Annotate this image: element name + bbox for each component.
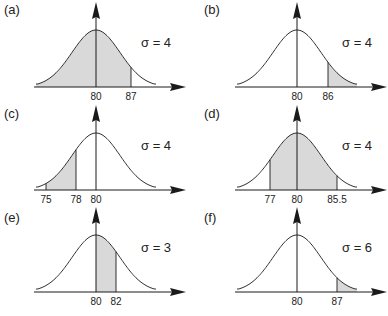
sigma-label: σ = 4 [342, 35, 372, 50]
tick-label: 82 [110, 296, 122, 307]
tick-label: 80 [291, 194, 303, 205]
tick-label: 75 [40, 194, 52, 205]
panel-label: (b) [204, 2, 220, 17]
y-axis-arrow-icon [293, 207, 301, 224]
tick-label: 80 [90, 91, 102, 102]
x-axis-arrow-icon [170, 186, 186, 194]
tick-label: 78 [70, 194, 82, 205]
x-axis-arrow-icon [371, 186, 387, 194]
y-axis-arrow-icon [92, 2, 100, 19]
panel-b: 8086(b)σ = 4 [204, 2, 387, 102]
panel-label: (c) [4, 106, 19, 121]
sigma-label: σ = 4 [141, 35, 171, 50]
shaded-area [337, 278, 357, 292]
tick-label: 80 [291, 91, 303, 102]
panel-e: 8082(e)σ = 3 [4, 207, 186, 307]
panel-d: 778085.5(d)σ = 4 [204, 105, 387, 205]
shaded-area [96, 235, 116, 292]
tick-label: 86 [322, 91, 334, 102]
x-axis-arrow-icon [371, 288, 387, 296]
normal-distribution-figure: 8087(a)σ = 48086(b)σ = 4757880(c)σ = 477… [0, 0, 388, 316]
tick-label: 80 [90, 296, 102, 307]
shaded-area [36, 30, 131, 87]
y-axis-arrow-icon [92, 207, 100, 224]
x-axis-arrow-icon [170, 83, 186, 91]
sigma-label: σ = 6 [342, 240, 372, 255]
tick-label: 80 [90, 194, 102, 205]
sigma-label: σ = 4 [342, 138, 372, 153]
sigma-label: σ = 4 [141, 138, 171, 153]
tick-label: 87 [331, 296, 343, 307]
y-axis-arrow-icon [293, 105, 301, 122]
tick-label: 80 [291, 296, 303, 307]
sigma-label: σ = 3 [141, 240, 171, 255]
shaded-area [270, 133, 337, 190]
panel-label: (e) [4, 210, 20, 225]
panel-label: (a) [4, 2, 20, 17]
panel-f: 8087(f)σ = 6 [204, 207, 387, 307]
y-axis-arrow-icon [92, 105, 100, 122]
panel-label: (f) [204, 210, 216, 225]
tick-label: 87 [125, 91, 137, 102]
y-axis-arrow-icon [293, 2, 301, 19]
tick-label: 85.5 [327, 194, 347, 205]
panel-label: (d) [204, 106, 220, 121]
x-axis-arrow-icon [371, 83, 387, 91]
tick-label: 77 [264, 194, 276, 205]
x-axis-arrow-icon [170, 288, 186, 296]
panel-c: 757880(c)σ = 4 [4, 105, 186, 205]
panel-a: 8087(a)σ = 4 [4, 2, 186, 102]
